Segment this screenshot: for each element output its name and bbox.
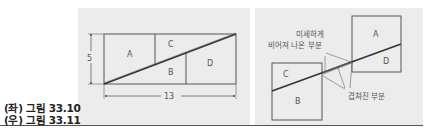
gap-annotation-line2: 비어져 나온 부분 <box>268 40 322 50</box>
height-label: 5 <box>87 54 92 63</box>
piece-label-a: A <box>373 30 379 39</box>
piece-label-a: A <box>127 50 133 59</box>
piece-label-b: B <box>168 68 174 77</box>
overlap-annotation: 겹쳐진 부분 <box>348 91 385 101</box>
piece-label-b: B <box>295 97 301 106</box>
leader-overlap-2 <box>338 68 345 88</box>
piece-label-c: C <box>168 40 174 49</box>
leader-overlap-3 <box>350 62 352 88</box>
piece-label-c: C <box>283 70 289 79</box>
square-a-d <box>352 16 401 72</box>
leader-gap-1 <box>326 53 351 62</box>
left-figure: A C B D 5 13 <box>87 33 236 101</box>
piece-label-d: D <box>207 59 213 68</box>
width-label: 13 <box>164 92 174 101</box>
gap-annotation-line1: 미세하게 <box>296 29 324 39</box>
right-figure: A D C B 미세하게 비어져 나온 부분 겹쳐진 부분 <box>268 16 401 120</box>
piece-label-d: D <box>383 57 389 66</box>
square-c-b <box>272 63 322 120</box>
figure-caption-right: (우) 그림 33.11 <box>4 112 81 127</box>
